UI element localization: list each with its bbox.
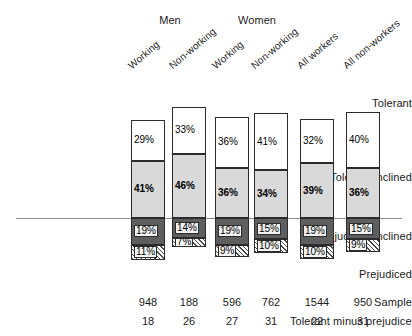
bar-segment-tolerant-inclined: 36% xyxy=(346,168,380,218)
footer-value-difference: 27 xyxy=(215,315,249,327)
segment-value-label: 15% xyxy=(349,223,373,235)
bar-segment-tolerant: 40% xyxy=(346,112,380,168)
segment-value-label: 10% xyxy=(257,240,281,252)
bar-segment-prejudiced-inclined: 19% xyxy=(300,218,334,245)
bar-segment-prejudiced: 7% xyxy=(172,238,206,248)
footer-value-sample: 950 xyxy=(346,296,380,308)
segment-value-label: 34% xyxy=(257,189,277,199)
bar-segment-prejudiced: 9% xyxy=(346,239,380,252)
segment-value-label: 33% xyxy=(175,125,195,135)
footer-value-sample: 1544 xyxy=(300,296,334,308)
segment-value-label: 9% xyxy=(349,239,367,251)
segment-value-label: 9% xyxy=(218,245,236,257)
bar-segment-prejudiced: 11% xyxy=(131,245,165,260)
bar-segment-tolerant: 41% xyxy=(254,113,288,170)
bar-segment-prejudiced: 9% xyxy=(215,245,249,258)
bar-column-1: 29%41%19%11% xyxy=(131,0,165,336)
footer-value-sample: 762 xyxy=(254,296,288,308)
segment-value-label: 14% xyxy=(175,222,199,234)
segment-value-label: 19% xyxy=(134,225,158,237)
bar-segment-tolerant: 32% xyxy=(300,119,334,164)
bar-segment-tolerant-inclined: 34% xyxy=(254,170,288,218)
segment-value-label: 10% xyxy=(303,246,327,258)
segment-value-label: 7% xyxy=(175,238,193,248)
bar-column-3: 36%36%19%9% xyxy=(215,0,249,336)
footer-value-difference: 22 xyxy=(300,315,334,327)
bar-segment-prejudiced-inclined: 14% xyxy=(172,218,206,238)
segment-value-label: 19% xyxy=(218,225,242,237)
footer-value-difference: 18 xyxy=(131,315,165,327)
footer-value-sample: 188 xyxy=(172,296,206,308)
bar-segment-tolerant-inclined: 41% xyxy=(131,161,165,218)
bar-segment-prejudiced: 10% xyxy=(254,239,288,253)
bar-segment-tolerant: 29% xyxy=(131,120,165,161)
footer-value-sample: 596 xyxy=(215,296,249,308)
segment-value-label: 36% xyxy=(218,137,238,147)
bar-segment-prejudiced-inclined: 19% xyxy=(131,218,165,245)
bar-segment-tolerant-inclined: 46% xyxy=(172,154,206,218)
segment-value-label: 15% xyxy=(257,223,281,235)
bar-segment-tolerant-inclined: 36% xyxy=(215,168,249,218)
bar-segment-prejudiced: 10% xyxy=(300,245,334,259)
segment-value-label: 46% xyxy=(175,181,195,191)
bar-segment-prejudiced-inclined: 15% xyxy=(346,218,380,239)
footer-value-difference: 31 xyxy=(346,315,380,327)
footer-value-sample: 948 xyxy=(131,296,165,308)
segment-value-label: 36% xyxy=(218,188,238,198)
segment-value-label: 32% xyxy=(303,136,323,146)
footer-value-difference: 31 xyxy=(254,315,288,327)
segment-value-label: 41% xyxy=(257,137,277,147)
segment-value-label: 39% xyxy=(303,186,323,196)
bar-column-6: 40%36%15%9% xyxy=(346,0,380,336)
zero-reference-line xyxy=(16,218,402,219)
bar-segment-tolerant: 33% xyxy=(172,107,206,153)
bar-segment-prejudiced-inclined: 19% xyxy=(215,218,249,245)
bar-segment-prejudiced-inclined: 15% xyxy=(254,218,288,239)
segment-value-label: 41% xyxy=(134,184,154,194)
stacked-bar-chart: Men Women Working Non-working Working No… xyxy=(0,0,412,336)
bar-column-5: 32%39%19%10% xyxy=(300,0,334,336)
footer-value-difference: 26 xyxy=(172,315,206,327)
bar-segment-tolerant: 36% xyxy=(215,117,249,167)
segment-value-label: 36% xyxy=(349,188,369,198)
bar-column-2: 33%46%14%7% xyxy=(172,0,206,336)
bar-column-4: 41%34%15%10% xyxy=(254,0,288,336)
bar-segment-tolerant-inclined: 39% xyxy=(300,163,334,218)
segment-value-label: 11% xyxy=(134,246,157,258)
segment-value-label: 29% xyxy=(134,135,154,145)
segment-value-label: 19% xyxy=(303,225,327,237)
segment-value-label: 40% xyxy=(349,135,369,145)
